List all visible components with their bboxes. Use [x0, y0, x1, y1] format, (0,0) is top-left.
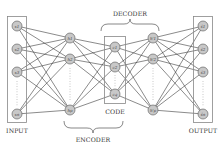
- edge: [70, 47, 115, 110]
- decoder-brace: [101, 19, 159, 31]
- node-label: x̂3: [201, 70, 206, 75]
- node-label: x1: [15, 24, 20, 29]
- input-node: x2: [12, 44, 22, 54]
- encoder-hidden-node: hp: [65, 105, 75, 115]
- input-label: INPUT: [6, 127, 29, 134]
- node-label: h'2: [150, 57, 157, 62]
- node-label: h1: [67, 36, 72, 41]
- connection-edges: [17, 26, 203, 114]
- edge: [153, 59, 203, 72]
- node-label: c1: [113, 45, 118, 50]
- decoder-label: DECODER: [113, 10, 147, 17]
- output-node: x̂3: [198, 67, 208, 77]
- edge: [17, 72, 70, 110]
- edge: [70, 47, 115, 59]
- node-label: h2: [67, 57, 73, 62]
- node-label: h'1: [150, 36, 156, 41]
- code-node: c2: [110, 62, 120, 72]
- code-node: c1: [110, 42, 120, 52]
- input-node: x3: [12, 67, 22, 77]
- edge: [17, 38, 70, 114]
- edge: [153, 26, 203, 38]
- edge: [17, 38, 70, 49]
- edge: [153, 110, 203, 114]
- edge: [153, 38, 203, 114]
- output-node: x̂1: [198, 21, 208, 31]
- edge: [17, 26, 70, 38]
- input-node: x1: [12, 21, 22, 31]
- edge: [153, 72, 203, 110]
- input-node: xn: [12, 109, 22, 119]
- edge: [153, 49, 203, 110]
- edge: [17, 26, 70, 110]
- node-label: x̂1: [201, 24, 206, 29]
- code-label: CODE: [105, 108, 125, 115]
- node-label: h'p: [150, 108, 157, 113]
- neuron-nodes: x1x2x3xnh1h2hpc1c2cqh'1h'2h'px̂1x̂2x̂3x̂…: [12, 21, 208, 119]
- output-label: OUTPUT: [189, 127, 218, 134]
- edge: [153, 38, 203, 49]
- edge: [115, 47, 153, 110]
- encoder-brace: [64, 121, 123, 133]
- edge: [17, 49, 70, 110]
- node-label: xn: [15, 112, 20, 117]
- encoder-hidden-node: h2: [65, 54, 75, 64]
- node-label: cq: [113, 92, 118, 97]
- node-label: x̂2: [201, 47, 206, 52]
- encoder-label: ENCODER: [76, 136, 111, 143]
- node-label: x3: [15, 70, 20, 75]
- output-node: x̂2: [198, 44, 208, 54]
- edge: [17, 59, 70, 114]
- node-label: c2: [113, 65, 118, 70]
- decoder-hidden-node: h'2: [148, 54, 158, 64]
- encoder-hidden-node: h1: [65, 33, 75, 43]
- output-node: x̂n: [198, 109, 208, 119]
- node-label: x2: [15, 47, 20, 52]
- node-label: hp: [67, 108, 73, 113]
- node-label: x̂n: [201, 112, 206, 117]
- decoder-hidden-node: h'p: [148, 105, 158, 115]
- edge: [17, 59, 70, 72]
- decoder-hidden-node: h'1: [148, 33, 158, 43]
- autoencoder-diagram: x1x2x3xnh1h2hpc1c2cqh'1h'2h'px̂1x̂2x̂3x̂…: [0, 0, 223, 152]
- code-node: cq: [110, 89, 120, 99]
- edge: [153, 26, 203, 110]
- edge: [153, 59, 203, 114]
- edge: [115, 47, 153, 59]
- edge: [17, 110, 70, 114]
